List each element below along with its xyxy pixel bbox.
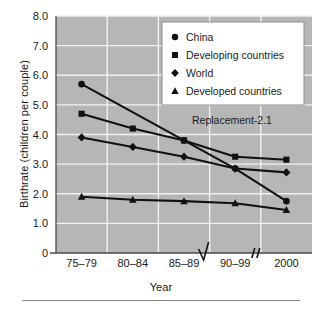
y-tick-label: 7.0 (33, 40, 48, 52)
data-point-square (79, 111, 85, 117)
y-tick-label: 8.0 (33, 10, 48, 22)
data-point-square (283, 157, 289, 163)
x-tick-label: 90–99 (220, 257, 251, 269)
y-tick-label: 2.0 (33, 188, 48, 200)
y-tick-label: 6.0 (33, 69, 48, 81)
data-point-circle (78, 81, 85, 88)
legend-label: Developed countries (186, 85, 282, 97)
data-point-circle (283, 198, 290, 205)
legend-marker-square (172, 52, 178, 58)
x-tick-label: 85–89 (169, 257, 200, 269)
data-point-square (232, 154, 238, 160)
y-tick-label: 0 (42, 247, 48, 259)
legend-label: Developing countries (186, 49, 284, 61)
legend-marker-circle (172, 34, 178, 40)
x-tick-label: 75–79 (66, 257, 97, 269)
chart-figure: Birthrate (children per couple) Year 01.… (0, 0, 322, 311)
bottom-rule-divider (22, 300, 300, 301)
y-tick-label: 3.0 (33, 158, 48, 170)
legend-label: World (186, 67, 213, 79)
x-tick-label: 80–84 (118, 257, 149, 269)
y-tick-label: 1.0 (33, 217, 48, 229)
data-point-square (130, 126, 136, 132)
annotation-replacement-level: Replacement-2.1 (192, 114, 272, 126)
y-tick-label: 5.0 (33, 99, 48, 111)
plot-svg: 01.02.03.04.05.06.07.08.075–7980–8485–89… (0, 0, 322, 311)
legend: ChinaDeveloping countriesWorldDeveloped … (162, 22, 304, 105)
y-tick-label: 4.0 (33, 129, 48, 141)
data-point-square (181, 137, 187, 143)
x-tick-label: 2000 (274, 257, 298, 269)
legend-label: China (186, 31, 214, 43)
